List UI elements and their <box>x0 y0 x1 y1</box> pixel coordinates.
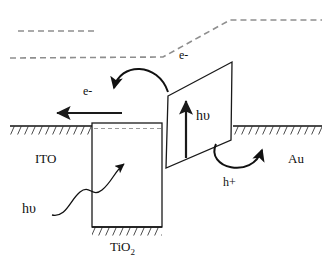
diagram-canvas: ITO Au e- e- h+ hυ hυ TiO2 <box>0 0 327 265</box>
au-label: Au <box>288 151 304 166</box>
energy-diagram-figure: ITO Au e- e- h+ hυ hυ TiO2 <box>0 0 327 265</box>
hole-transfer-arrow <box>214 144 262 168</box>
hole-label: h+ <box>223 175 236 189</box>
electron-injection-arrow <box>114 69 168 92</box>
electron-left-label: e- <box>83 84 92 98</box>
electron-top-label: e- <box>179 48 188 62</box>
ito-label: ITO <box>35 151 56 166</box>
dye-photon-label: hυ <box>196 108 210 123</box>
tio2-label-main: TiO <box>110 239 130 254</box>
tio2-layer <box>92 123 162 236</box>
stepped-energy-level <box>10 20 322 58</box>
tio2-label-subscript: 2 <box>130 247 135 257</box>
au-electrode <box>233 126 322 135</box>
ito-electrode <box>10 126 92 135</box>
tio2-label: TiO2 <box>110 239 135 257</box>
tio2-photon-label: hυ <box>22 201 36 216</box>
